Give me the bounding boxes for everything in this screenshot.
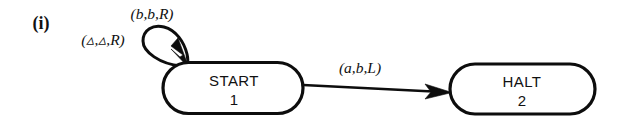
node-start-number: 1 xyxy=(230,91,238,108)
node-halt-label: HALT xyxy=(503,73,542,90)
node-start-label: START xyxy=(209,72,259,89)
edge-label-self-loop-blank: (▵,▵,R) xyxy=(81,31,125,49)
edge-label-self-loop-b: (b,b,R) xyxy=(130,5,173,23)
turing-machine-diagram: START 1 HALT 2 (▵,▵,R) (b,b,R) (a,b,L) (… xyxy=(0,0,628,130)
edge-label-start-to-halt: (a,b,L) xyxy=(339,59,381,77)
edge-start-to-halt-line xyxy=(303,85,443,92)
diagram-canvas: START 1 HALT 2 (▵,▵,R) (b,b,R) (a,b,L) (… xyxy=(0,0,628,130)
node-halt-number: 2 xyxy=(518,92,526,109)
figure-tag: (i) xyxy=(33,13,50,34)
